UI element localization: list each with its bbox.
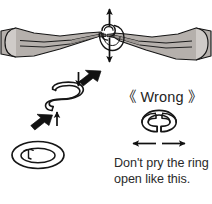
background (0, 0, 212, 204)
diagram-canvas: 《 Wrong 》 Don't pry the ring open like t… (0, 0, 212, 204)
closed-split-ring-group (12, 142, 64, 169)
diagram-artwork (0, 0, 212, 204)
